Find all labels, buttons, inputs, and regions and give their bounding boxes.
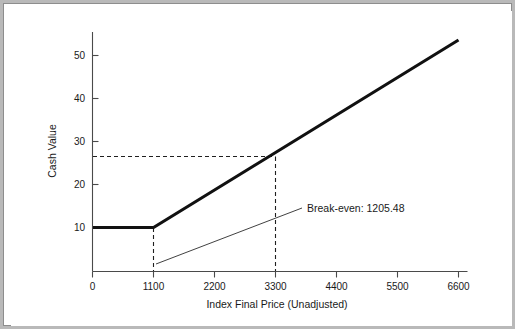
x-axis-title: Index Final Price (Unadjusted) bbox=[206, 298, 347, 310]
x-tick-label-4400: 4400 bbox=[325, 281, 348, 292]
x-tick-label-3300: 3300 bbox=[264, 281, 287, 292]
y-tick-label-50: 50 bbox=[74, 50, 86, 61]
figure-outer-frame: 50 40 30 20 10 Cash Value bbox=[3, 3, 512, 326]
annotation-leader-line bbox=[156, 208, 302, 264]
figure-panel: 50 40 30 20 10 Cash Value bbox=[11, 11, 512, 326]
annotation-label: Break-even: 1205.48 bbox=[307, 202, 405, 214]
reference-lines bbox=[93, 157, 276, 272]
y-axis-ticks bbox=[93, 56, 99, 228]
x-axis-ticks bbox=[93, 272, 459, 278]
y-axis-title: Cash Value bbox=[46, 124, 58, 178]
y-tick-label-20: 20 bbox=[74, 179, 86, 190]
screenshot-canvas: 50 40 30 20 10 Cash Value bbox=[0, 0, 515, 329]
x-tick-label-0: 0 bbox=[90, 281, 96, 292]
x-tick-label-2200: 2200 bbox=[203, 281, 226, 292]
x-tick-label-1100: 1100 bbox=[143, 281, 165, 292]
y-tick-label-10: 10 bbox=[74, 222, 86, 233]
break-even-annotation: Break-even: 1205.48 bbox=[156, 202, 405, 264]
payoff-chart: 50 40 30 20 10 Cash Value bbox=[11, 11, 512, 326]
y-axis-tick-labels: 50 40 30 20 10 bbox=[74, 50, 86, 233]
y-tick-label-40: 40 bbox=[74, 93, 86, 104]
x-tick-label-6600: 6600 bbox=[447, 281, 470, 292]
x-tick-label-5500: 5500 bbox=[386, 281, 409, 292]
y-tick-label-30: 30 bbox=[74, 136, 86, 147]
x-axis-tick-labels: 0 1100 2200 3300 4400 5500 6600 bbox=[90, 281, 470, 292]
